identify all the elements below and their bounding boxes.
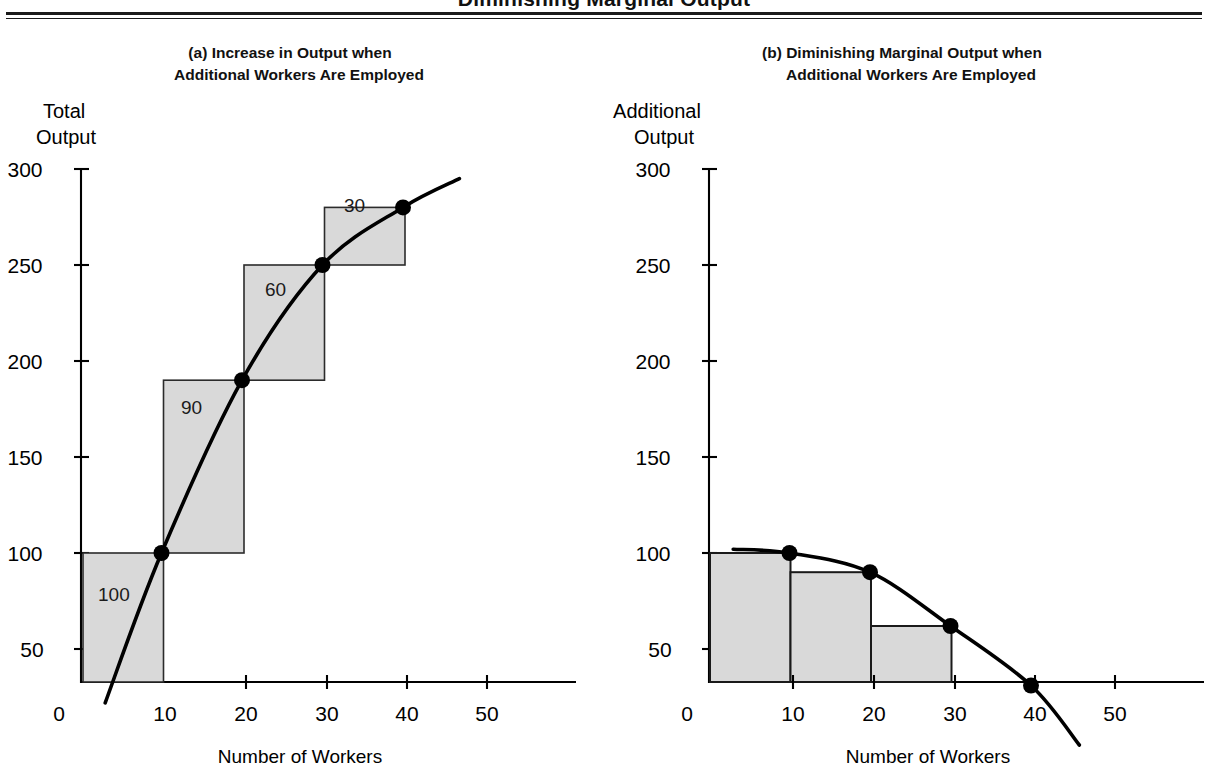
chart-b-bar-1	[710, 553, 791, 682]
chart-a-dot-40	[395, 199, 411, 215]
chart-b-bar-3	[871, 626, 952, 682]
chart-b-bar-2	[791, 572, 872, 682]
chart-a-ytick-200: 200	[7, 350, 42, 373]
figure-page: Diminishing Marginal Output (a) Increase…	[0, 0, 1208, 779]
chart-b-ytick-250: 250	[635, 254, 670, 277]
chart-a-ytick-300: 300	[7, 158, 42, 181]
chart-b-bars	[710, 553, 952, 682]
chart-a-xtick-0: 0	[53, 702, 65, 725]
chart-b-xtick-50: 50	[1103, 702, 1126, 725]
chart-a-dot-10	[154, 545, 170, 561]
chart-b-dot-10	[782, 545, 798, 561]
chart-a-xaxis-title: Number of Workers	[218, 746, 382, 767]
chart-a-xtick-40: 40	[395, 702, 418, 725]
chart-a-ytick-100: 100	[7, 542, 42, 565]
chart-a-xtick-30: 30	[315, 702, 338, 725]
chart-b-ytick-300: 300	[635, 158, 670, 181]
chart-b-dot-30	[943, 618, 959, 634]
chart-b-xtick-0: 0	[681, 702, 693, 725]
chart-a-step-label-60: 60	[265, 279, 286, 300]
chart-a-step-box-4	[325, 207, 406, 265]
chart-a-step-box-1	[83, 553, 164, 682]
chart-a-dot-20	[234, 372, 250, 388]
chart-b-ytick-100: 100	[635, 542, 670, 565]
chart-a-x-tick-labels: 0 10 20 30 40 50	[53, 702, 499, 725]
chart-a-step-label-90: 90	[181, 397, 202, 418]
chart-a-xtick-20: 20	[234, 702, 257, 725]
chart-b-ytick-50: 50	[648, 638, 671, 661]
chart-a-yaxis-name-line1: Total	[43, 100, 85, 122]
chart-b-yaxis-name-line2: Output	[634, 126, 694, 148]
chart-a-step-boxes	[83, 207, 405, 682]
chart-b-dot-20	[862, 564, 878, 580]
chart-b-xtick-40: 40	[1023, 702, 1046, 725]
chart-a-dot-30	[315, 257, 331, 273]
chart-a-ytick-50: 50	[20, 638, 43, 661]
chart-b-xtick-20: 20	[862, 702, 885, 725]
chart-a-xtick-50: 50	[475, 702, 498, 725]
chart-b-ytick-200: 200	[635, 350, 670, 373]
chart-a-y-tick-labels: 300 250 200 150 100 50	[7, 158, 43, 661]
chart-b-y-tick-labels: 300 250 200 150 100 50	[635, 158, 671, 661]
chart-a-xtick-10: 10	[153, 702, 176, 725]
chart-b: Additional Output 300 250 200 150 100 50	[604, 0, 1208, 779]
chart-a-ytick-150: 150	[7, 446, 42, 469]
chart-a: Total Output 300 250 200 150 100 50	[0, 0, 604, 779]
chart-b-ytick-150: 150	[635, 446, 670, 469]
chart-a-step-label-30: 30	[344, 195, 365, 216]
chart-a-step-label-100: 100	[98, 584, 130, 605]
chart-a-ytick-250: 250	[7, 254, 42, 277]
chart-b-xtick-30: 30	[943, 702, 966, 725]
chart-b-xtick-10: 10	[781, 702, 804, 725]
chart-a-step-box-2	[164, 380, 245, 553]
chart-a-yaxis-name-line2: Output	[36, 126, 96, 148]
chart-b-xaxis-title: Number of Workers	[846, 746, 1010, 767]
chart-b-dot-40	[1023, 678, 1039, 694]
chart-b-yaxis-name-line1: Additional	[613, 100, 701, 122]
